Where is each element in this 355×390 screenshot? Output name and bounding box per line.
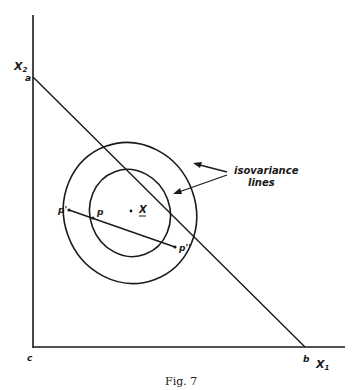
- figure-caption: Fig. 7: [165, 375, 197, 388]
- point-p-double-prime: [173, 245, 176, 248]
- point-p: [91, 216, 94, 219]
- label-p-prime: p': [57, 205, 67, 215]
- point-p-prime: [67, 208, 70, 211]
- annotation-lines: lines: [248, 177, 275, 188]
- diagram-canvas: X2 a c b X1 p' p p'' X isovariance lines…: [0, 0, 355, 390]
- arrow-outer-head-icon: [193, 162, 202, 168]
- label-c: c: [27, 353, 33, 363]
- inner-isovariance-ellipse: [77, 158, 182, 268]
- center-point: [130, 210, 133, 213]
- label-a: a: [25, 73, 31, 83]
- label-p: p: [96, 207, 104, 217]
- annotation-isovariance: isovariance: [234, 165, 299, 176]
- arrow-inner-line: [176, 175, 227, 193]
- label-b: b: [303, 354, 310, 364]
- arrow-inner-head-icon: [173, 188, 182, 194]
- chord-p-prime-p-double-prime: [69, 210, 175, 247]
- outer-isovariance-ellipse: [44, 124, 217, 303]
- y-axis-label: X2: [13, 60, 27, 74]
- label-x-mean: X: [138, 204, 148, 215]
- x-axis-label: X1: [315, 358, 329, 372]
- label-p-double-prime: p'': [178, 243, 191, 253]
